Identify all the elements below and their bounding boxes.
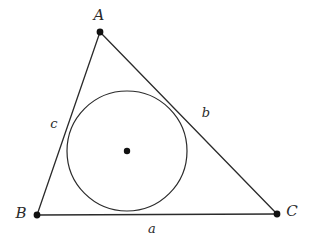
side-label-c: c [50, 116, 58, 131]
vertex-label-a: A [92, 6, 105, 24]
side-c-line [37, 32, 100, 215]
side-label-b: b [202, 105, 210, 120]
geometry-canvas: A B C a b c [0, 0, 314, 246]
vertex-point-c [274, 211, 281, 218]
side-a-line [37, 214, 277, 215]
vertex-point-b [34, 212, 41, 219]
vertex-point-a [97, 29, 104, 36]
geometry-diagram: A B C a b c [0, 0, 314, 246]
side-b-line [100, 32, 277, 214]
vertex-label-c: C [286, 202, 298, 220]
side-label-a: a [148, 221, 156, 236]
incenter-point [124, 148, 130, 154]
vertex-label-b: B [14, 204, 26, 222]
